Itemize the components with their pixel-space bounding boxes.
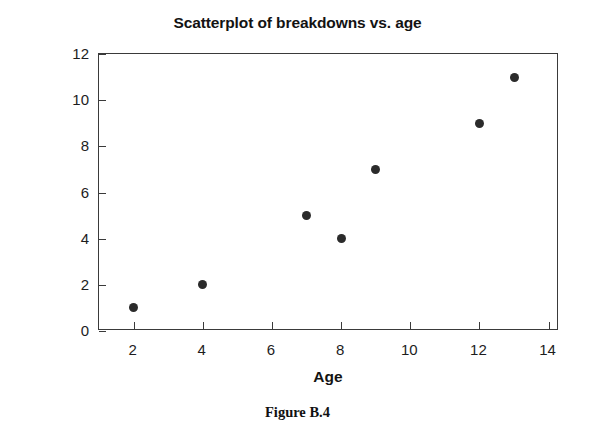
y-tick-label: 4: [49, 231, 89, 246]
figure-container: Scatterplot of breakdowns vs. age 024681…: [0, 0, 595, 437]
x-tick-label: 8: [320, 342, 360, 357]
data-point: [337, 234, 346, 243]
x-axis-tick: [134, 322, 135, 329]
data-point: [475, 119, 484, 128]
y-tick-label: 6: [49, 185, 89, 200]
data-point: [129, 303, 138, 312]
x-tick-label: 6: [251, 342, 291, 357]
y-axis-tick: [99, 285, 106, 286]
y-axis-tick: [99, 239, 106, 240]
y-axis-tick: [99, 193, 106, 194]
data-point: [371, 165, 380, 174]
y-tick-label: 12: [49, 46, 89, 61]
x-tick-label: 14: [528, 342, 568, 357]
y-axis-tick: [99, 146, 106, 147]
plot-frame: [98, 53, 558, 330]
y-tick-label: 8: [49, 138, 89, 153]
y-axis-tick: [99, 100, 106, 101]
data-point: [302, 211, 311, 220]
figure-caption: Figure B.4: [0, 404, 595, 421]
chart-title: Scatterplot of breakdowns vs. age: [0, 14, 595, 32]
y-tick-label: 0: [49, 323, 89, 338]
x-tick-label: 2: [113, 342, 153, 357]
plot-area: [99, 54, 557, 329]
x-tick-label: 10: [389, 342, 429, 357]
x-axis-title: Age: [98, 368, 558, 386]
y-axis-tick: [99, 331, 106, 332]
x-tick-label: 4: [182, 342, 222, 357]
x-axis-tick: [272, 322, 273, 329]
x-tick-label: 12: [458, 342, 498, 357]
x-axis-tick: [203, 322, 204, 329]
x-axis-tick: [549, 322, 550, 329]
data-point: [198, 280, 207, 289]
y-axis-tick: [99, 54, 106, 55]
y-tick-label: 2: [49, 277, 89, 292]
data-point: [510, 73, 519, 82]
x-axis-tick: [479, 322, 480, 329]
x-axis-tick: [341, 322, 342, 329]
y-tick-label: 10: [49, 92, 89, 107]
x-axis-tick: [410, 322, 411, 329]
